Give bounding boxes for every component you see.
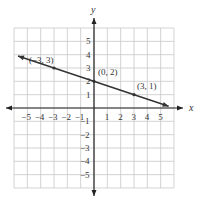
x-tick-label: −3	[48, 112, 58, 122]
x-axis-label: x	[188, 102, 194, 113]
arrow-icon	[18, 56, 24, 61]
y-tick-label: 4	[86, 50, 91, 60]
x-tick-label: −5	[21, 112, 31, 122]
y-axis-label: y	[90, 4, 96, 15]
y-tick-label: −1	[80, 116, 90, 126]
y-tick-label: −5	[80, 170, 90, 180]
x-tick-label: −4	[35, 112, 45, 122]
y-tick-label: −4	[80, 156, 90, 166]
x-tick-label: 2	[118, 112, 123, 122]
y-tick-label: 5	[86, 36, 91, 46]
data-point	[52, 66, 55, 69]
point-label: (0, 2)	[98, 67, 118, 77]
data-point	[92, 80, 95, 83]
point-label: (−3, 3)	[29, 55, 54, 65]
y-tick-label: 3	[86, 63, 91, 73]
x-tick-label: 1	[105, 112, 110, 122]
y-tick-label: 1	[86, 90, 91, 100]
y-tick-label: −2	[80, 130, 90, 140]
x-tick-label: 3	[131, 112, 136, 122]
y-tick-label: 2	[86, 76, 91, 86]
x-tick-label: −2	[61, 112, 71, 122]
graph: xy−5−4−3−2−11234554321−1−2−3−4−5(−3, 3)(…	[0, 0, 201, 201]
x-tick-label: 4	[145, 112, 150, 122]
y-tick-label: −3	[80, 143, 90, 153]
point-label: (3, 1)	[137, 81, 157, 91]
coordinate-plane: xy−5−4−3−2−11234554321−1−2−3−4−5(−3, 3)(…	[0, 0, 201, 201]
arrow-icon	[162, 102, 168, 107]
x-tick-label: 5	[158, 112, 163, 122]
data-point	[132, 93, 135, 96]
